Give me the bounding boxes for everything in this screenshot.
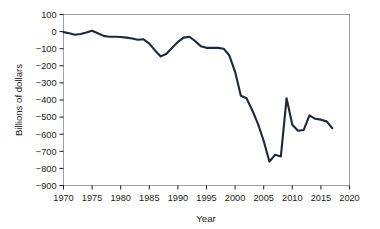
y-tick-label: −300 — [36, 78, 57, 88]
y-tick-label: −100 — [36, 44, 57, 54]
x-tick-label: 1995 — [196, 193, 216, 203]
y-tick-label: −600 — [36, 130, 57, 140]
y-tick-label: 100 — [41, 10, 56, 20]
y-tick-label: −400 — [36, 95, 57, 105]
x-tick-label: 2020 — [339, 193, 359, 203]
x-tick-label: 1980 — [110, 193, 130, 203]
budget-deficit-line-chart: 1000−100−200−300−400−500−600−700−800−900… — [0, 0, 380, 229]
x-tick-label: 2000 — [225, 193, 245, 203]
y-tick-label: −500 — [36, 112, 57, 122]
x-tick-label: 1985 — [139, 193, 159, 203]
x-tick-label: 1970 — [53, 193, 73, 203]
x-tick-label: 1975 — [82, 193, 102, 203]
y-tick-label: −700 — [36, 147, 57, 157]
chart-figure: 1000−100−200−300−400−500−600−700−800−900… — [0, 0, 380, 229]
x-tick-label: 1990 — [168, 193, 188, 203]
y-tick-label: −200 — [36, 61, 57, 71]
y-tick-label: −800 — [36, 164, 57, 174]
x-tick-label: 2015 — [311, 193, 331, 203]
y-axis-title: Billions of dollars — [13, 64, 24, 136]
x-axis-title: Year — [196, 213, 216, 224]
x-tick-label: 2005 — [253, 193, 273, 203]
y-tick-label: −900 — [36, 181, 57, 191]
plot-area-border — [64, 15, 350, 186]
x-tick-label: 2010 — [282, 193, 302, 203]
y-tick-label: 0 — [51, 27, 56, 37]
x-axis-tick-labels: 1970197519801985199019952000200520102015… — [53, 193, 359, 203]
